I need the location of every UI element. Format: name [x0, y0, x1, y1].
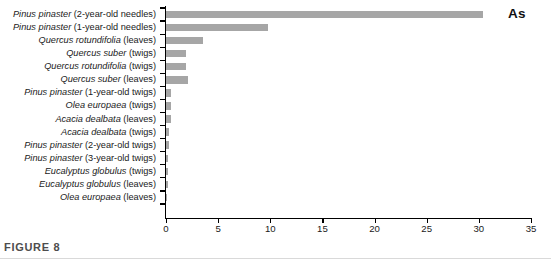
x-tick-label: 10	[255, 223, 285, 234]
y-tick	[160, 99, 165, 100]
x-tick-label: 5	[203, 223, 233, 234]
category-label: Eucalyptus globulus (twigs)	[0, 165, 161, 178]
species-name: Olea europaea	[66, 100, 127, 110]
bar-row	[166, 126, 551, 139]
bar	[166, 37, 203, 44]
category-label: Pinus pinaster (2-year-old twigs)	[0, 139, 161, 152]
bar-row	[166, 165, 551, 178]
x-tick-label: 20	[360, 223, 390, 234]
tissue-name: (leaves)	[121, 179, 156, 189]
category-label: Quercus rotundifolia (twigs)	[0, 60, 161, 73]
species-name: Pinus pinaster	[13, 9, 71, 19]
species-name: Quercus rotundifolia	[44, 61, 126, 71]
bar-row	[166, 73, 551, 86]
bar	[166, 76, 188, 83]
y-tick	[160, 7, 165, 8]
y-tick	[160, 203, 165, 204]
bar-series-as	[166, 8, 551, 204]
bar-row	[166, 21, 551, 34]
bar	[166, 115, 171, 122]
category-label: Olea europaea (twigs)	[0, 99, 161, 112]
y-tick	[160, 190, 165, 191]
category-label: Pinus pinaster (2-year-old needles)	[0, 8, 161, 21]
bar	[166, 194, 167, 201]
y-tick	[160, 47, 165, 48]
tissue-name: (twigs)	[126, 127, 156, 137]
category-label: Pinus pinaster (1-year-old needles)	[0, 21, 161, 34]
tissue-name: (twigs)	[126, 166, 156, 176]
bar	[166, 141, 169, 148]
bar-row	[166, 178, 551, 191]
species-name: Quercus suber	[61, 74, 121, 84]
bar-row	[166, 86, 551, 99]
species-name: Eucalyptus globulus	[45, 166, 127, 176]
bar-row	[166, 99, 551, 112]
bar	[166, 155, 168, 162]
bar	[166, 24, 268, 31]
category-label: Acacia dealbata (twigs)	[0, 126, 161, 139]
bar	[166, 102, 171, 109]
bar-row	[166, 113, 551, 126]
figure-caption: FIGURE 8	[4, 241, 60, 253]
x-tick-label: 15	[307, 223, 337, 234]
bar	[166, 168, 168, 175]
bar	[166, 11, 483, 18]
bar	[166, 63, 186, 70]
tissue-name: (1-year-old twigs)	[82, 87, 156, 97]
y-tick	[160, 138, 165, 139]
category-label: Quercus rotundifolia (leaves)	[0, 34, 161, 47]
tissue-name: (3-year-old twigs)	[82, 153, 156, 163]
tissue-name: (1-year-old needles)	[71, 22, 156, 32]
species-name: Acacia dealbata	[55, 114, 120, 124]
tissue-name: (leaves)	[121, 74, 156, 84]
series-annotation-label: As	[508, 6, 526, 21]
bar-row	[166, 60, 551, 73]
category-label: Quercus suber (leaves)	[0, 73, 161, 86]
y-tick	[160, 164, 165, 165]
bar-chart: Pinus pinaster (2-year-old needles)Pinus…	[0, 0, 551, 232]
y-tick	[160, 34, 165, 35]
category-label: Quercus suber (twigs)	[0, 47, 161, 60]
tissue-name: (leaves)	[121, 192, 156, 202]
y-tick	[160, 112, 165, 113]
species-name: Quercus rotundifolia	[39, 35, 121, 45]
caption-divider	[0, 258, 551, 259]
species-name: Eucalyptus globulus	[39, 179, 121, 189]
x-tick-label: 30	[464, 223, 494, 234]
tissue-name: (2-year-old twigs)	[82, 140, 156, 150]
bar	[166, 181, 168, 188]
bar-row	[166, 139, 551, 152]
tissue-name: (leaves)	[121, 114, 156, 124]
species-name: Quercus suber	[66, 48, 126, 58]
y-tick	[160, 73, 165, 74]
x-axis-line	[165, 218, 531, 219]
tissue-name: (leaves)	[121, 35, 156, 45]
category-label: Olea europaea (leaves)	[0, 191, 161, 204]
x-tick-label: 25	[412, 223, 442, 234]
y-tick	[160, 20, 165, 21]
figure-container: Pinus pinaster (2-year-old needles)Pinus…	[0, 0, 551, 265]
category-axis-labels: Pinus pinaster (2-year-old needles)Pinus…	[0, 8, 161, 204]
x-tick-label: 0	[151, 223, 181, 234]
bar	[166, 128, 169, 135]
bar-row	[166, 152, 551, 165]
y-tick	[160, 151, 165, 152]
y-tick	[160, 60, 165, 61]
category-label: Pinus pinaster (3-year-old twigs)	[0, 152, 161, 165]
species-name: Pinus pinaster	[24, 140, 82, 150]
species-name: Pinus pinaster	[24, 87, 82, 97]
bar-row	[166, 34, 551, 47]
species-name: Olea europaea	[60, 192, 121, 202]
bar	[166, 50, 186, 57]
category-label: Eucalyptus globulus (leaves)	[0, 178, 161, 191]
tissue-name: (twigs)	[126, 48, 156, 58]
species-name: Pinus pinaster	[24, 153, 82, 163]
y-tick	[160, 86, 165, 87]
tissue-name: (twigs)	[126, 61, 156, 71]
tissue-name: (twigs)	[126, 100, 156, 110]
bar-row	[166, 8, 551, 21]
category-label: Pinus pinaster (1-year-old twigs)	[0, 86, 161, 99]
tissue-name: (2-year-old needles)	[71, 9, 156, 19]
y-tick	[160, 125, 165, 126]
y-tick	[160, 177, 165, 178]
